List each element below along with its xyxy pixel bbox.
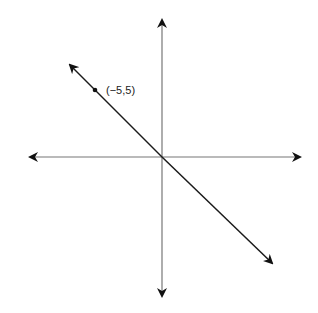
line-negative-slope xyxy=(70,65,272,263)
coordinate-plane: (−5,5) xyxy=(0,0,318,313)
point-label: (−5,5) xyxy=(106,84,135,96)
point-marker xyxy=(93,88,98,93)
